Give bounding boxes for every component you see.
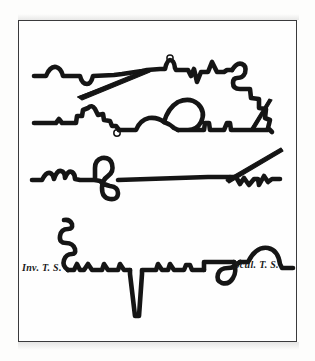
trace-row-1	[34, 55, 272, 132]
plate-bottom-shadow	[18, 342, 299, 350]
trace-row-2	[34, 99, 272, 136]
caption-inventor: Inv. T. S.	[22, 262, 62, 273]
engraving-plate: Inv. T. S. Scul. T. S.	[0, 0, 315, 361]
trace-row-3	[32, 148, 283, 199]
caption-sculptor: Scul. T. S.	[234, 259, 279, 270]
trace-figures	[18, 20, 297, 342]
